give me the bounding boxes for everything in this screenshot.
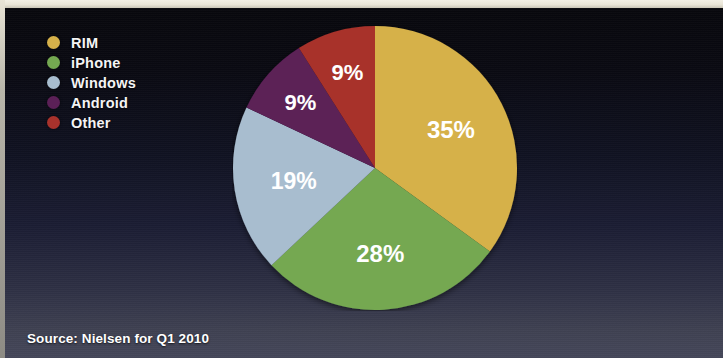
legend-label-iphone: iPhone [71,55,121,71]
legend-swatch-iphone [47,56,60,69]
legend-item-windows: Windows [47,73,136,92]
legend-swatch-other [47,116,60,129]
legend-label-other: Other [71,115,111,131]
legend-swatch-windows [47,76,60,89]
legend-item-android: Android [47,93,136,112]
pie-label-other: 9% [331,60,363,85]
pie-label-rim: 35% [427,116,475,143]
legend-item-other: Other [47,113,136,132]
source-caption: Source: Nielsen for Q1 2010 [27,331,209,346]
pie-label-android: 9% [285,90,317,115]
legend-item-iphone: iPhone [47,53,136,72]
paper-edge-top [0,0,723,8]
legend-label-windows: Windows [71,75,136,91]
legend-swatch-rim [47,36,60,49]
legend-swatch-android [47,96,60,109]
pie-chart: 35%28%19%9%9% [232,25,518,311]
pie-label-windows: 19% [271,168,317,194]
pie-svg: 35%28%19%9%9% [232,25,518,311]
legend-label-rim: RIM [71,35,98,51]
chart-legend: RIM iPhone Windows Android Other [47,33,136,133]
paper-edge-left [0,0,5,358]
pie-chart-figure: RIM iPhone Windows Android Other [0,0,723,358]
legend-item-rim: RIM [47,33,136,52]
pie-label-iphone: 28% [356,240,404,267]
legend-label-android: Android [71,95,128,111]
